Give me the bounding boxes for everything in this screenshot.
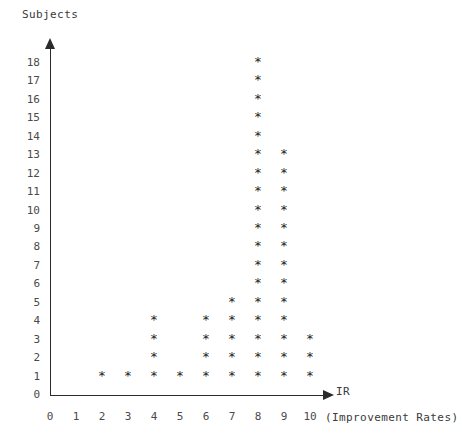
y-axis-arrow-icon <box>45 38 55 49</box>
y-tick-label-11: 11 <box>14 186 40 197</box>
x-axis-title: IR <box>336 385 350 398</box>
x-tick-label-1: 1 <box>64 411 88 422</box>
data-point: * <box>252 314 264 326</box>
data-point: * <box>278 296 290 308</box>
data-point: * <box>252 259 264 271</box>
data-point: * <box>278 222 290 234</box>
x-tick-label-7: 7 <box>220 411 244 422</box>
data-point: * <box>278 167 290 179</box>
x-tick-label-4: 4 <box>142 411 166 422</box>
data-point: * <box>252 148 264 160</box>
data-point: * <box>200 314 212 326</box>
x-axis-subtitle: (Improvement Rates) <box>325 411 458 424</box>
y-tick-label-13: 13 <box>14 149 40 160</box>
y-tick-label-16: 16 <box>14 94 40 105</box>
data-point: * <box>122 370 134 382</box>
data-point: * <box>278 277 290 289</box>
x-tick-label-9: 9 <box>272 411 296 422</box>
x-tick-label-6: 6 <box>194 411 218 422</box>
data-point: * <box>226 333 238 345</box>
data-point: * <box>278 240 290 252</box>
y-tick-label-0: 0 <box>14 389 40 400</box>
data-point: * <box>200 370 212 382</box>
y-tick-label-8: 8 <box>14 241 40 252</box>
x-axis-arrow-icon <box>323 390 334 400</box>
data-point: * <box>148 314 160 326</box>
data-point: * <box>304 351 316 363</box>
data-point: * <box>252 74 264 86</box>
data-point: * <box>252 277 264 289</box>
data-point: * <box>252 130 264 142</box>
data-point: * <box>252 240 264 252</box>
x-tick-label-8: 8 <box>246 411 270 422</box>
x-tick-label-3: 3 <box>116 411 140 422</box>
y-tick-label-4: 4 <box>14 315 40 326</box>
data-point: * <box>252 167 264 179</box>
data-point: * <box>252 56 264 68</box>
x-tick-label-10: 10 <box>298 411 322 422</box>
data-point: * <box>304 370 316 382</box>
data-point: * <box>226 314 238 326</box>
data-point: * <box>200 333 212 345</box>
data-point: * <box>252 333 264 345</box>
data-point: * <box>252 351 264 363</box>
data-point: * <box>252 370 264 382</box>
y-tick-label-15: 15 <box>14 112 40 123</box>
x-tick-label-5: 5 <box>168 411 192 422</box>
y-tick-label-18: 18 <box>14 57 40 68</box>
data-point: * <box>148 370 160 382</box>
y-tick-label-7: 7 <box>14 260 40 271</box>
y-tick-label-10: 10 <box>14 205 40 216</box>
data-point: * <box>278 259 290 271</box>
data-point: * <box>226 351 238 363</box>
scatter-chart: Subjects 0123456789101112131415161718 01… <box>0 0 462 446</box>
y-tick-label-17: 17 <box>14 75 40 86</box>
y-axis-title: Subjects <box>22 8 78 21</box>
y-tick-label-3: 3 <box>14 334 40 345</box>
data-point: * <box>252 93 264 105</box>
data-point: * <box>278 370 290 382</box>
data-point: * <box>148 351 160 363</box>
y-tick-label-5: 5 <box>14 297 40 308</box>
y-tick-label-12: 12 <box>14 168 40 179</box>
y-tick-label-2: 2 <box>14 352 40 363</box>
data-point: * <box>304 333 316 345</box>
data-point: * <box>278 333 290 345</box>
y-tick-label-9: 9 <box>14 223 40 234</box>
y-tick-label-6: 6 <box>14 278 40 289</box>
data-point: * <box>226 370 238 382</box>
x-tick-label-0: 0 <box>38 411 62 422</box>
data-point: * <box>278 351 290 363</box>
y-tick-label-1: 1 <box>14 371 40 382</box>
data-point: * <box>226 296 238 308</box>
data-point: * <box>252 111 264 123</box>
data-point: * <box>200 351 212 363</box>
y-axis-line <box>50 46 51 396</box>
x-axis-line <box>50 395 326 396</box>
data-point: * <box>278 185 290 197</box>
x-tick-label-2: 2 <box>90 411 114 422</box>
data-point: * <box>252 222 264 234</box>
data-point: * <box>174 370 186 382</box>
data-point: * <box>252 204 264 216</box>
data-point: * <box>278 148 290 160</box>
data-point: * <box>278 314 290 326</box>
data-point: * <box>96 370 108 382</box>
data-point: * <box>252 296 264 308</box>
data-point: * <box>252 185 264 197</box>
data-point: * <box>148 333 160 345</box>
data-point: * <box>278 204 290 216</box>
y-tick-label-14: 14 <box>14 131 40 142</box>
